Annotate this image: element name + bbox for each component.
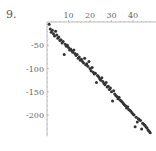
- data-point: [139, 119, 142, 122]
- data-point: [54, 30, 57, 33]
- data-point: [94, 72, 97, 75]
- x-tick-label: 20: [85, 11, 95, 20]
- data-point: [72, 48, 75, 51]
- data-point: [134, 125, 137, 128]
- y-tick-label: -50: [31, 41, 44, 50]
- data-point: [112, 89, 115, 92]
- data-point: [111, 100, 114, 103]
- data-point: [91, 66, 94, 69]
- data-point: [63, 53, 66, 56]
- y-tick-label: -150: [26, 88, 44, 97]
- x-tick-label: 40: [128, 11, 138, 20]
- axis-ticks: 10203040-50-100-150-200: [26, 11, 150, 134]
- data-point: [48, 23, 51, 26]
- data-point: [133, 114, 136, 117]
- data-point: [118, 96, 121, 99]
- data-points: [48, 23, 152, 134]
- data-point: [136, 120, 139, 123]
- y-tick-label: -100: [26, 65, 44, 74]
- data-point: [109, 87, 112, 90]
- data-point: [105, 81, 108, 84]
- data-point: [95, 81, 98, 84]
- data-point: [100, 76, 103, 79]
- scatter-plot: 10203040-50-100-150-200: [0, 0, 156, 151]
- y-tick-label: -200: [26, 111, 44, 120]
- data-point: [86, 65, 89, 68]
- x-tick-label: 30: [106, 11, 116, 20]
- data-point: [149, 131, 152, 134]
- data-point: [83, 57, 86, 60]
- data-point: [76, 53, 79, 56]
- data-point: [140, 127, 143, 130]
- data-point: [51, 29, 54, 32]
- data-point: [62, 40, 65, 43]
- data-point: [126, 105, 129, 108]
- x-tick-label: 10: [63, 11, 73, 20]
- data-point: [57, 35, 60, 38]
- data-point: [78, 55, 81, 58]
- data-point: [87, 60, 90, 63]
